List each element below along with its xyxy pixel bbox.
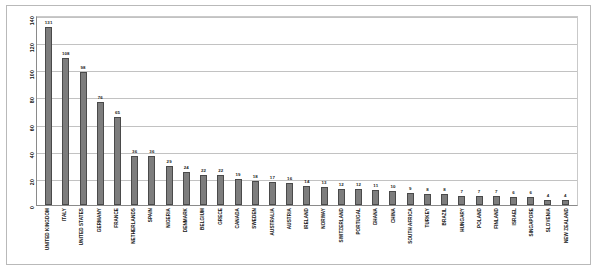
bar bbox=[544, 200, 551, 205]
bar-slot: 11 bbox=[367, 17, 384, 205]
x-tick-slot: BELGIUM bbox=[195, 208, 212, 262]
x-tick-label: TURKEY bbox=[425, 208, 431, 228]
bar-value-label: 19 bbox=[235, 172, 240, 177]
bars-layer: 1311089876653636292422221918171614131212… bbox=[37, 17, 577, 205]
x-tick-slot: NEW ZEALAND bbox=[558, 208, 575, 262]
x-tick-slot: SOUTH AFRICA bbox=[402, 208, 419, 262]
bar-value-label: 29 bbox=[167, 159, 172, 164]
x-tick-slot: SLOVENIA bbox=[541, 208, 558, 262]
x-tick-slot: POLAND bbox=[471, 208, 488, 262]
bar-value-label: 8 bbox=[426, 187, 429, 192]
x-tick-slot: ITALY bbox=[56, 208, 73, 262]
bar bbox=[252, 181, 259, 205]
bar-value-label: 10 bbox=[390, 184, 395, 189]
x-tick-label: UNITED KINGDOM bbox=[45, 208, 51, 250]
y-tick-label: 60 bbox=[29, 125, 35, 131]
bar-slot: 7 bbox=[470, 17, 487, 205]
x-tick-label: FINLAND bbox=[494, 208, 500, 229]
bar-slot: 108 bbox=[57, 17, 74, 205]
x-tick-label: ISRAEL bbox=[512, 208, 518, 225]
x-tick-slot: ISRAEL bbox=[506, 208, 523, 262]
bar-slot: 65 bbox=[109, 17, 126, 205]
bar bbox=[200, 175, 207, 205]
bar-value-label: 7 bbox=[495, 189, 498, 194]
bar-value-label: 16 bbox=[287, 176, 292, 181]
x-tick-slot: NORWAY bbox=[316, 208, 333, 262]
y-tick-label: 120 bbox=[29, 43, 35, 52]
x-tick-slot: AUSTRALIA bbox=[264, 208, 281, 262]
x-tick-slot: GRECE bbox=[212, 208, 229, 262]
x-tick-slot: FRANCE bbox=[108, 208, 125, 262]
x-tick-slot: SWITZERLAND bbox=[333, 208, 350, 262]
x-tick-slot: BRAZIL bbox=[437, 208, 454, 262]
bar-value-label: 6 bbox=[529, 190, 532, 195]
x-tick-label: GERMANY bbox=[97, 208, 103, 232]
bar-slot: 19 bbox=[229, 17, 246, 205]
bar-value-label: 24 bbox=[184, 165, 189, 170]
bar-slot: 22 bbox=[195, 17, 212, 205]
bar-slot: 76 bbox=[92, 17, 109, 205]
y-tick-label: 100 bbox=[29, 70, 35, 79]
y-tick-label: 20 bbox=[29, 179, 35, 185]
x-tick-slot: IRELAND bbox=[298, 208, 315, 262]
y-tick-label: 40 bbox=[29, 152, 35, 158]
bar-slot: 17 bbox=[264, 17, 281, 205]
x-tick-label: GRECE bbox=[218, 208, 224, 225]
x-tick-label: SLOVENIA bbox=[546, 208, 552, 232]
bar-slot: 98 bbox=[74, 17, 91, 205]
x-tick-label: UNITED STATES bbox=[79, 208, 85, 245]
x-tick-label: IRELAND bbox=[304, 208, 310, 229]
x-tick-slot: UNITED STATES bbox=[74, 208, 91, 262]
x-tick-label: CHINA bbox=[391, 208, 397, 223]
bar bbox=[321, 187, 328, 205]
x-tick-label: AUSTRALIA bbox=[270, 208, 276, 235]
bar bbox=[476, 196, 483, 206]
bar bbox=[45, 27, 52, 205]
bar-slot: 14 bbox=[298, 17, 315, 205]
x-tick-label: FRANCE bbox=[114, 208, 120, 228]
x-tick-label: BRAZIL bbox=[442, 208, 448, 225]
x-tick-label: SPAIN bbox=[148, 208, 154, 222]
bar-value-label: 9 bbox=[409, 186, 412, 191]
bar-slot: 8 bbox=[419, 17, 436, 205]
x-tick-label: NETHERLANDS bbox=[131, 208, 137, 244]
x-tick-slot: FINLAND bbox=[489, 208, 506, 262]
bar-value-label: 7 bbox=[461, 189, 464, 194]
bar bbox=[235, 179, 242, 205]
x-tick-label: SOUTH AFRICA bbox=[408, 208, 414, 244]
bar bbox=[441, 194, 448, 205]
bar bbox=[372, 190, 379, 205]
bar bbox=[80, 72, 87, 205]
bar-value-label: 36 bbox=[149, 149, 154, 154]
x-tick-slot: NETHERLANDS bbox=[125, 208, 142, 262]
x-tick-label: HUNGARY bbox=[460, 208, 466, 232]
y-tick-label: 0 bbox=[29, 206, 35, 209]
bar-slot: 24 bbox=[178, 17, 195, 205]
bar-value-label: 11 bbox=[373, 183, 378, 188]
x-tick-label: GHANA bbox=[373, 208, 379, 225]
bar-slot: 22 bbox=[212, 17, 229, 205]
bar bbox=[303, 186, 310, 205]
bar-value-label: 14 bbox=[304, 179, 309, 184]
bar-slot: 29 bbox=[161, 17, 178, 205]
x-tick-slot: SPAIN bbox=[143, 208, 160, 262]
x-tick-slot: TURKEY bbox=[420, 208, 437, 262]
bar bbox=[355, 189, 362, 205]
bar-value-label: 22 bbox=[218, 168, 223, 173]
bar-value-label: 13 bbox=[322, 180, 327, 185]
bar bbox=[166, 166, 173, 205]
bar-value-label: 6 bbox=[512, 190, 515, 195]
bar bbox=[338, 189, 345, 205]
x-tick-slot: UNITED KINGDOM bbox=[39, 208, 56, 262]
bar-value-label: 22 bbox=[201, 168, 206, 173]
bar bbox=[183, 172, 190, 205]
bar bbox=[97, 102, 104, 205]
bar-value-label: 36 bbox=[132, 149, 137, 154]
bar bbox=[114, 117, 121, 205]
bar-chart-figure: 020406080100120140 131108987665363629242… bbox=[0, 0, 598, 271]
bar bbox=[62, 58, 69, 205]
y-axis: 020406080100120140 bbox=[6, 16, 34, 206]
x-tick-slot: SWEDEN bbox=[247, 208, 264, 262]
x-tick-label: SWITZERLAND bbox=[339, 208, 345, 243]
bar-value-label: 65 bbox=[115, 110, 120, 115]
